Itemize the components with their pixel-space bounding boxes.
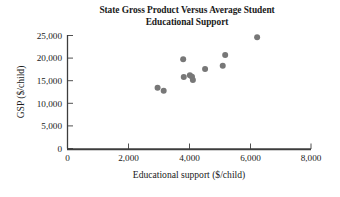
x-tick-label: 0 <box>65 153 70 163</box>
y-tick-label: 5,000 <box>41 121 62 131</box>
y-axis-title: GSP ($/child) <box>15 66 27 119</box>
x-axis-title: Educational support ($/child) <box>133 169 245 181</box>
plot-area: 0 5,000 10,000 15,000 20,000 25,000 0 2,… <box>0 0 340 197</box>
x-tick-label: 8,000 <box>301 153 322 163</box>
y-axis-ticks <box>68 36 74 149</box>
x-tick-label: 6,000 <box>240 153 261 163</box>
y-tick-label: 25,000 <box>37 31 63 41</box>
y-tick-label: 10,000 <box>37 99 63 109</box>
data-point <box>190 77 196 83</box>
x-tick-label: 2,000 <box>118 153 139 163</box>
data-point <box>180 56 186 62</box>
data-point <box>254 34 260 40</box>
x-tick-label: 4,000 <box>179 153 200 163</box>
y-axis-tick-labels: 0 5,000 10,000 15,000 20,000 25,000 <box>37 31 63 154</box>
data-point <box>202 66 208 72</box>
data-point <box>161 88 167 94</box>
y-tick-label: 20,000 <box>37 53 63 63</box>
data-point-series <box>155 34 261 93</box>
data-point <box>220 63 226 69</box>
data-point <box>181 74 187 80</box>
data-point <box>222 52 228 58</box>
y-tick-label: 15,000 <box>37 76 63 86</box>
data-point <box>155 85 161 91</box>
scatter-plot-figure: State Gross Product Versus Average Stude… <box>0 0 340 197</box>
x-axis-tick-labels: 0 2,000 4,000 6,000 8,000 <box>65 153 322 163</box>
y-tick-label: 0 <box>57 144 62 154</box>
axes <box>67 35 311 149</box>
